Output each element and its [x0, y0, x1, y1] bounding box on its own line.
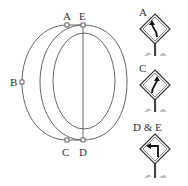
sign-a-caption: A: [139, 6, 147, 18]
label-e: E: [79, 10, 86, 22]
track-diagram: A E B C D A C D & E: [0, 0, 188, 186]
marker-e: [81, 23, 85, 27]
sign-d-e: D & E: [133, 121, 170, 178]
label-a: A: [63, 10, 71, 22]
marker-c: [65, 138, 69, 142]
sign-c: C: [139, 62, 170, 112]
sign-c-caption: C: [139, 62, 146, 74]
marker-d: [81, 138, 85, 142]
label-b: B: [10, 76, 17, 88]
label-c: C: [62, 146, 69, 158]
marker-b: [20, 80, 24, 84]
sign-a: A: [139, 6, 170, 56]
label-d: D: [79, 146, 87, 158]
outer-track: [22, 25, 127, 140]
middle-track: [40, 25, 83, 140]
inner-track: [53, 33, 115, 129]
sign-de-caption: D & E: [133, 121, 162, 133]
marker-a: [65, 23, 69, 27]
